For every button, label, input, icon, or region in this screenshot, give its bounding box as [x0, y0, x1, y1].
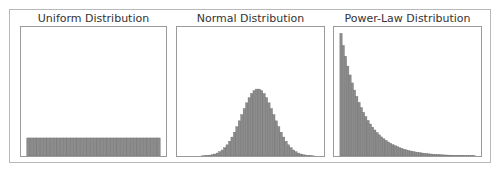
uniform-panel — [20, 26, 167, 157]
normal-title: Normal Distribution — [176, 12, 325, 25]
normal-panel — [176, 26, 325, 157]
normal-histogram — [177, 27, 324, 156]
powerlaw-title: Power-Law Distribution — [333, 12, 482, 25]
powerlaw-panel — [333, 26, 482, 157]
uniform-title: Uniform Distribution — [20, 12, 167, 25]
powerlaw-histogram — [334, 27, 481, 156]
uniform-histogram — [21, 27, 166, 156]
